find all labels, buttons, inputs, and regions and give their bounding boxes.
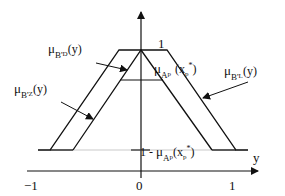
x-axis-label: y xyxy=(253,151,260,164)
arrow-b-l xyxy=(203,82,248,98)
label-mu-b-d: μB'D(y) xyxy=(48,40,82,56)
label-mu-a-p-top: μAp (xp*) xyxy=(154,60,196,76)
y-tick-1: 1 xyxy=(158,37,165,50)
outer-trapezoid xyxy=(38,50,248,150)
arrow-b-d xyxy=(96,63,127,70)
label-mu-b-l: μB'L(y) xyxy=(224,62,257,78)
diagram-canvas xyxy=(0,0,285,196)
membership-diagram: 1 μB'D(y) μB'Z(y) μB'L(y) μAp (xp*) 1 - … xyxy=(0,0,285,196)
x-tick-neg1: −1 xyxy=(24,179,38,192)
x-tick-0: 0 xyxy=(136,179,143,192)
x-tick-1: 1 xyxy=(229,179,236,192)
arrow-b-z xyxy=(61,102,93,119)
label-mu-b-z: μB'Z(y) xyxy=(14,80,47,96)
label-one-minus-mu-a-p: 1 - μAp(xp*) xyxy=(140,143,194,159)
